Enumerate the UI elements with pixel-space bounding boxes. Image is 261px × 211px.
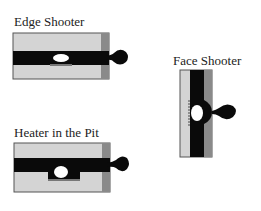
heater-bubble-icon — [53, 54, 69, 62]
ink-droplet-icon — [212, 104, 236, 119]
face-shooter-diagram — [180, 70, 236, 157]
inkjet-diagram — [0, 0, 261, 211]
heater-bubble-icon — [191, 105, 203, 121]
heater-bubble-icon — [54, 166, 68, 178]
heater-pit-diagram — [14, 143, 129, 192]
edge-shooter-diagram — [13, 33, 128, 79]
